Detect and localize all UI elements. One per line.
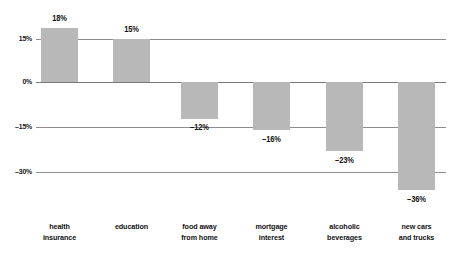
bar-health-insurance	[41, 28, 78, 82]
gridline-15	[36, 39, 446, 40]
category-label-line2: interest	[244, 232, 299, 243]
value-label-new-cars-and-trucks: –36%	[398, 194, 434, 204]
value-label-alcoholic-beverages: –23%	[326, 155, 362, 165]
category-label-line1: new cars	[401, 222, 431, 231]
category-label-health-insurance: health insurance	[32, 221, 87, 243]
category-label-line1: health	[49, 222, 70, 231]
category-label-line2: insurance	[32, 232, 87, 243]
value-label-mortgage-interest: –16%	[253, 134, 289, 144]
category-label-line1: mortgage	[255, 222, 287, 231]
category-label-food-away-from-home: food away from home	[172, 221, 227, 243]
y-tick-label-neg30: –30%	[4, 167, 32, 176]
y-tick-label-neg15: –15%	[4, 122, 32, 131]
bar-chart: 15% 0% –15% –30% 18% 15% –12% –16% –23% …	[0, 0, 451, 258]
category-label-line2: from home	[172, 232, 227, 243]
gridline-0	[36, 82, 446, 83]
category-label-new-cars-and-trucks: new cars and trucks	[389, 221, 444, 243]
value-label-education: 15%	[113, 24, 149, 34]
value-label-food-away-from-home: –12%	[181, 122, 217, 132]
category-label-line2: and trucks	[389, 232, 444, 243]
category-label-alcoholic-beverages: alcoholic beverages	[317, 221, 372, 243]
category-label-line2: beverages	[317, 232, 372, 243]
bar-mortgage-interest	[253, 82, 290, 130]
value-label-health-insurance: 18%	[41, 13, 77, 23]
y-tick-label-15: 15%	[4, 34, 32, 43]
category-label-education: education	[104, 221, 159, 232]
category-label-mortgage-interest: mortgage interest	[244, 221, 299, 243]
bar-alcoholic-beverages	[326, 82, 363, 151]
gridline-neg15	[36, 127, 446, 128]
bar-food-away-from-home	[181, 82, 218, 119]
y-tick-label-0: 0%	[4, 77, 32, 86]
category-label-line1: education	[115, 222, 148, 231]
category-label-line1: alcoholic	[329, 222, 359, 231]
bar-new-cars-and-trucks	[398, 82, 435, 190]
bar-education	[113, 39, 150, 82]
category-label-line1: food away	[182, 222, 216, 231]
gridline-neg30	[36, 172, 446, 173]
